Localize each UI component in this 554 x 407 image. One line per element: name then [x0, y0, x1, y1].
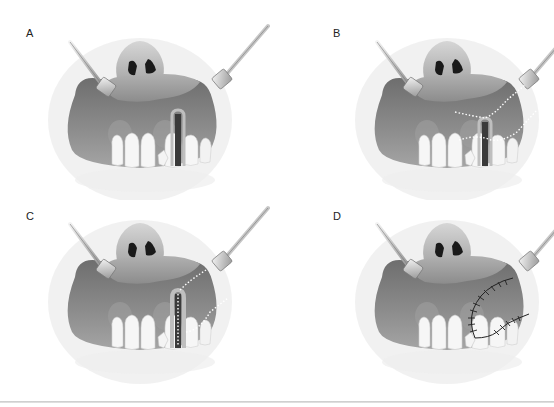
panel-d: D	[277, 200, 554, 400]
maxilla-illustration-b	[277, 0, 554, 200]
panel-a: A	[0, 0, 277, 200]
maxilla-illustration-d	[277, 200, 554, 400]
cleft-defect	[175, 114, 181, 166]
maxilla-illustration-c	[0, 200, 277, 400]
panel-b: B	[277, 0, 554, 200]
bottom-divider	[0, 401, 554, 403]
panel-c: C	[0, 200, 277, 400]
maxilla-illustration-a	[0, 0, 277, 200]
